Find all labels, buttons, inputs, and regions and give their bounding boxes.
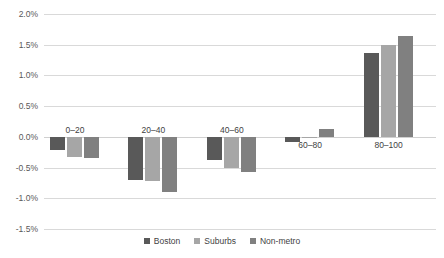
- bar-chart: 2.0%1.5%1.0%0.5%0.0%-0.5%-1.0%-1.5% 0–20…: [0, 0, 444, 258]
- legend-item[interactable]: Boston: [144, 236, 180, 246]
- bar[interactable]: [319, 129, 334, 137]
- y-axis-tick-label: -1.0%: [16, 193, 38, 203]
- y-axis-tick-label: 2.0%: [19, 9, 38, 19]
- bar-group: 40–60: [201, 14, 279, 229]
- y-axis-tick-label: -0.5%: [16, 163, 38, 173]
- x-axis-category-label: 40–60: [197, 125, 267, 135]
- bar[interactable]: [84, 137, 99, 159]
- bar[interactable]: [67, 137, 82, 157]
- legend-label: Suburbs: [204, 236, 236, 246]
- x-axis-category-label: 60–80: [275, 140, 345, 150]
- legend-item[interactable]: Non-metro: [250, 236, 300, 246]
- y-axis-tick-label: 1.5%: [19, 40, 38, 50]
- bar[interactable]: [241, 137, 256, 173]
- gridline: [44, 229, 436, 230]
- legend-swatch-icon: [250, 238, 256, 244]
- chart-legend: BostonSuburbsNon-metro: [0, 236, 444, 246]
- bar[interactable]: [50, 137, 65, 151]
- plot-area: 2.0%1.5%1.0%0.5%0.0%-0.5%-1.0%-1.5% 0–20…: [44, 14, 436, 229]
- x-axis-category-label: 80–100: [354, 140, 424, 150]
- y-axis-tick-label: 0.5%: [19, 101, 38, 111]
- bar[interactable]: [162, 137, 177, 192]
- bars-row: [44, 14, 122, 229]
- y-axis-tick-label: -1.5%: [16, 224, 38, 234]
- bar-group: 80–100: [358, 14, 436, 229]
- legend-label: Non-metro: [260, 236, 300, 246]
- y-axis-tick-label: 1.0%: [19, 70, 38, 80]
- legend-swatch-icon: [144, 238, 150, 244]
- bars-row: [279, 14, 357, 229]
- bar[interactable]: [398, 36, 413, 137]
- x-axis-category-label: 20–40: [118, 125, 188, 135]
- bar-group: 0–20: [44, 14, 122, 229]
- bar[interactable]: [364, 53, 379, 137]
- bar[interactable]: [207, 137, 222, 160]
- bar[interactable]: [302, 137, 317, 138]
- bar[interactable]: [128, 137, 143, 180]
- bar[interactable]: [145, 137, 160, 181]
- y-axis-tick-label: 0.0%: [19, 132, 38, 142]
- legend-swatch-icon: [194, 238, 200, 244]
- legend-item[interactable]: Suburbs: [194, 236, 236, 246]
- bars-row: [358, 14, 436, 229]
- x-axis-category-label: 0–20: [40, 125, 110, 135]
- bars-row: [122, 14, 200, 229]
- bar-group: 20–40: [122, 14, 200, 229]
- bar[interactable]: [381, 45, 396, 137]
- bar[interactable]: [224, 137, 239, 168]
- bars-row: [201, 14, 279, 229]
- legend-label: Boston: [154, 236, 180, 246]
- bar-group: 60–80: [279, 14, 357, 229]
